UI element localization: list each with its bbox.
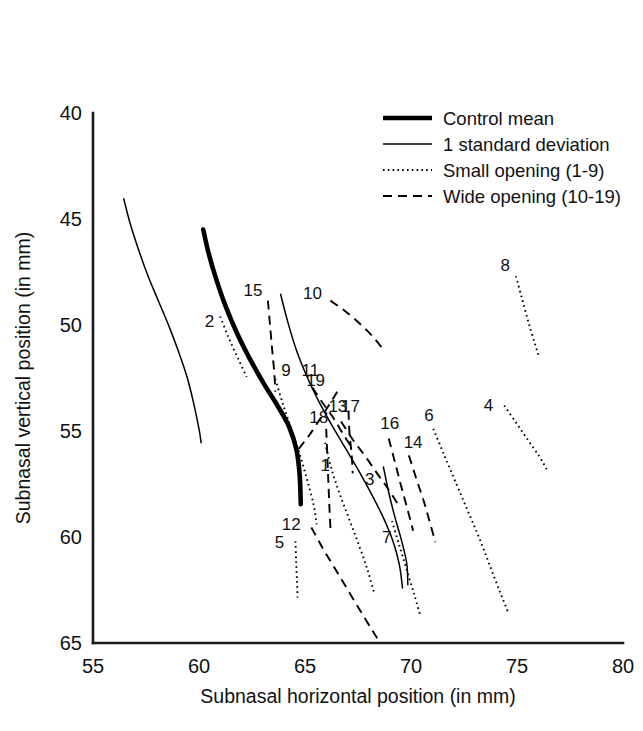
y-tick-label: 55 — [60, 420, 82, 442]
curve-label-10: 10 — [303, 284, 322, 303]
curve-label-7: 7 — [382, 528, 391, 547]
x-tick-label: 60 — [188, 655, 210, 677]
curve-label-4: 4 — [484, 396, 493, 415]
y-axis-title: Subnasal vertical position (in mm) — [12, 232, 34, 525]
curve-label-19: 19 — [306, 371, 325, 390]
x-tick-label: 80 — [612, 655, 634, 677]
scatter-line-plot: 404550556065 556065707580 Subnasal verti… — [0, 0, 643, 731]
curve-label-17: 17 — [341, 397, 360, 416]
chart-figure: 404550556065 556065707580 Subnasal verti… — [0, 0, 643, 731]
legend-label-standard-deviation: 1 standard deviation — [443, 134, 610, 155]
y-tick-label: 40 — [60, 102, 82, 124]
curve-label-15: 15 — [244, 281, 263, 300]
curve-label-12: 12 — [282, 515, 301, 534]
y-tick-label: 65 — [60, 632, 82, 654]
curve-label-1: 1 — [320, 456, 329, 475]
y-tick-label: 50 — [60, 314, 82, 336]
curve-label-8: 8 — [501, 256, 510, 275]
x-tick-label: 55 — [82, 655, 104, 677]
x-axis-title: Subnasal horizontal position (in mm) — [200, 685, 515, 707]
legend-label-wide-opening: Wide opening (10-19) — [443, 186, 621, 207]
y-tick-label: 45 — [60, 208, 82, 230]
legend-label-control-mean: Control mean — [443, 108, 554, 129]
curve-label-9: 9 — [281, 361, 290, 380]
x-tick-label: 75 — [506, 655, 528, 677]
curve-label-14: 14 — [404, 433, 423, 452]
curve-label-18: 18 — [309, 408, 328, 427]
curve-label-2: 2 — [205, 312, 214, 331]
curve-label-3: 3 — [365, 470, 374, 489]
y-tick-label: 60 — [60, 526, 82, 548]
curve-label-6: 6 — [424, 406, 433, 425]
curve-label-16: 16 — [380, 414, 399, 433]
x-tick-label: 70 — [400, 655, 422, 677]
legend-label-small-opening: Small opening (1-9) — [443, 160, 604, 181]
curve-label-5: 5 — [275, 533, 284, 552]
x-tick-label: 65 — [294, 655, 316, 677]
